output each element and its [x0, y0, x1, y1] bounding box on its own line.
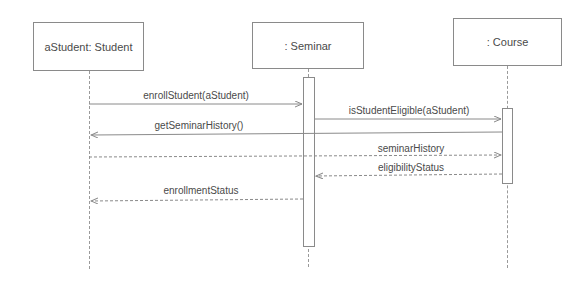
message-label-getSeminarHistory: getSeminarHistory(): [155, 120, 244, 131]
message-label-isStudentEligible: isStudentEligible(aStudent): [349, 105, 470, 116]
message-label-enrollStudent: enrollStudent(aStudent): [143, 90, 249, 101]
arrow-getSeminarHistory: [91, 132, 502, 135]
message-label-enrollmentStatus: enrollmentStatus: [163, 185, 238, 196]
message-label-eligibilityStatus: eligibilityStatus: [378, 162, 444, 173]
message-arrows: [0, 0, 585, 281]
arrow-seminarHistory: [89, 155, 501, 157]
arrow-eligibilityStatus: [316, 174, 502, 176]
arrow-enrollmentStatus: [91, 199, 303, 201]
message-label-seminarHistory: seminarHistory: [378, 143, 445, 154]
